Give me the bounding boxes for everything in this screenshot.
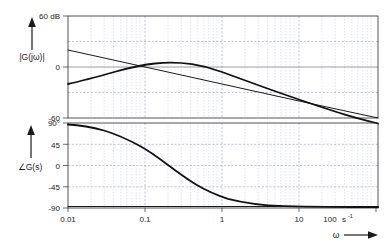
magnitude-axis-label: |G(jω)| <box>19 52 44 62</box>
frequency-tick-0p1: 0.1 <box>139 215 151 224</box>
magnitude-axis-up-arrow-icon <box>28 17 36 50</box>
phase-horizontal-gridlines <box>68 144 378 187</box>
series-closed-loop-magnitude <box>68 63 378 124</box>
phase-tick-minus45: -45 <box>48 183 60 192</box>
frequency-axis-right-arrow-icon <box>344 231 378 239</box>
magnitude-tick-60db: 60 dB <box>39 12 60 21</box>
frequency-tick-1: 1 <box>220 215 225 224</box>
magnitude-panel <box>68 16 378 124</box>
phase-y-tickmarks <box>63 123 68 208</box>
frequency-unit-exponent: -1 <box>348 213 353 219</box>
phase-tick-90: 90° <box>48 119 60 128</box>
bode-plot-figure: 60 dB 0 -60 |G(jω)| 90° 45 0 -45 -90 ∠G(… <box>0 0 386 245</box>
series-integrator-asymptote <box>68 50 378 118</box>
frequency-axis-label: ω <box>333 230 340 240</box>
series-phase-curve <box>68 125 378 208</box>
frequency-tick-0p01: 0.01 <box>60 215 76 224</box>
phase-tick-45: 45 <box>51 141 60 150</box>
frequency-unit-label: s <box>342 215 346 224</box>
frequency-axis-tickmarks <box>68 208 376 212</box>
magnitude-y-tickmarks <box>63 16 68 118</box>
phase-panel <box>68 123 378 208</box>
phase-axis-label: ∠G(s) <box>18 162 43 172</box>
phase-axis-up-arrow-icon <box>27 125 35 158</box>
phase-tick-0: 0 <box>56 162 61 171</box>
frequency-tick-10: 10 <box>295 215 304 224</box>
magnitude-tick-0db: 0 <box>56 63 61 72</box>
bode-plot-svg: 60 dB 0 -60 |G(jω)| 90° 45 0 -45 -90 ∠G(… <box>0 0 386 245</box>
frequency-tick-100: 100 <box>323 215 337 224</box>
phase-tick-minus90: -90 <box>48 204 60 213</box>
